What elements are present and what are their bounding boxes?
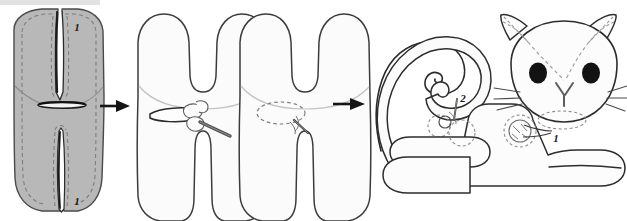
callout-1-bottom-left: 1 <box>74 195 80 207</box>
body-outline-step3 <box>239 14 371 221</box>
step-3-closing-slit-panel <box>239 14 371 221</box>
callout-2-tail-join: 2 <box>459 92 466 104</box>
upper-center-slit-shadow <box>56 12 57 92</box>
callout-1-head-join: 1 <box>553 132 559 144</box>
step-4-assembled-cat-panel: 2 1 <box>376 14 627 193</box>
diagram-svg: 1 1 <box>0 0 627 221</box>
callout-1-top-left: 1 <box>74 21 80 33</box>
cat-eye-left <box>529 63 547 84</box>
cat-eye-right <box>582 63 600 84</box>
step-1-gray-fabric-body-panel: 1 1 <box>14 9 104 212</box>
cat-front-leg <box>383 157 470 193</box>
tutorial-diagram-canvas: 1 1 <box>0 0 627 221</box>
